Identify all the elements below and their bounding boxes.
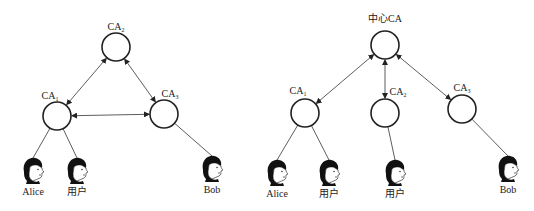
- left-node-ca1-label: CA1: [42, 90, 59, 102]
- left-node-ca3: CA3: [150, 88, 178, 128]
- right-node-r3-label: CA3: [454, 82, 471, 94]
- right-user-2-label: 用户: [385, 187, 405, 199]
- link-ca1-ca3: [72, 114, 149, 115]
- edges-layer: [33, 55, 508, 160]
- right-user-2: 用户: [385, 160, 406, 199]
- link-r2-user: [388, 127, 395, 160]
- right-node-r1-label: CA1: [290, 85, 307, 97]
- right-user-3-label: Bob: [500, 184, 517, 195]
- left-node-ca1-circle: [43, 102, 71, 130]
- right-node-r3-circle: [448, 95, 476, 123]
- right-node-root-ca-circle: [371, 31, 399, 59]
- left-node-ca3-label: CA3: [162, 88, 179, 100]
- user-face-icon: [203, 156, 223, 182]
- right-user-3: Bob: [499, 156, 519, 195]
- link-ca2-ca3: [125, 59, 156, 102]
- right-node-r2-label: CA2: [390, 86, 407, 98]
- left-node-ca3-subscript: 3: [175, 94, 178, 100]
- right-node-r3-subscript: 3: [467, 88, 470, 94]
- user-face-icon: [268, 160, 288, 186]
- right-node-r1: CA1: [290, 85, 319, 127]
- left-node-ca2-label: CA2: [108, 21, 125, 33]
- nodes-layer: CA2CA1CA3中心CACA1CA2CA3: [42, 12, 476, 130]
- left-node-ca1-subscript: 1: [55, 96, 58, 102]
- link-r1-user: [277, 125, 298, 160]
- right-user-1-label: 用户: [319, 187, 339, 199]
- left-node-ca2: CA2: [102, 21, 130, 61]
- right-node-r3: CA3: [448, 82, 476, 123]
- link-ca1-ca2: [67, 58, 107, 104]
- user-face-icon: [386, 160, 406, 186]
- link-r3-user: [472, 119, 508, 156]
- users-layer: Alice用户BobAlice用户用户Bob: [22, 156, 519, 199]
- right-user-0: Alice: [266, 160, 288, 199]
- left-user-2-label: Bob: [204, 184, 221, 195]
- left-user-0: Alice: [22, 158, 44, 197]
- left-node-ca2-subscript: 2: [121, 27, 124, 33]
- left-node-ca2-circle: [102, 33, 130, 61]
- right-node-r2: CA2: [371, 86, 406, 127]
- link-ca1-user: [33, 128, 50, 158]
- right-node-root-ca: 中心CA: [368, 12, 403, 59]
- diagram-canvas: CA2CA1CA3中心CACA1CA2CA3 Alice用户BobAlice用户…: [0, 0, 534, 211]
- link-root-r1: [316, 55, 373, 104]
- link-ca1-user: [63, 129, 77, 158]
- left-node-ca3-circle: [150, 100, 178, 128]
- link-ca3-user: [175, 123, 212, 156]
- left-user-2: Bob: [203, 156, 223, 195]
- right-node-r1-circle: [291, 99, 319, 127]
- right-node-r1-subscript: 1: [303, 91, 306, 97]
- link-r1-user: [311, 125, 329, 160]
- user-face-icon: [24, 158, 44, 184]
- user-face-icon: [68, 158, 88, 184]
- user-face-icon: [499, 156, 519, 182]
- right-node-root-ca-label: 中心CA: [368, 12, 403, 24]
- left-user-1: 用户: [67, 158, 88, 197]
- left-user-1-label: 用户: [67, 185, 87, 197]
- right-node-r2-circle: [371, 99, 399, 127]
- right-user-1: 用户: [319, 160, 340, 199]
- right-node-r2-subscript: 2: [403, 92, 406, 98]
- left-node-ca1: CA1: [42, 90, 71, 130]
- left-user-0-label: Alice: [22, 186, 44, 197]
- right-user-0-label: Alice: [266, 188, 288, 199]
- user-face-icon: [320, 160, 340, 186]
